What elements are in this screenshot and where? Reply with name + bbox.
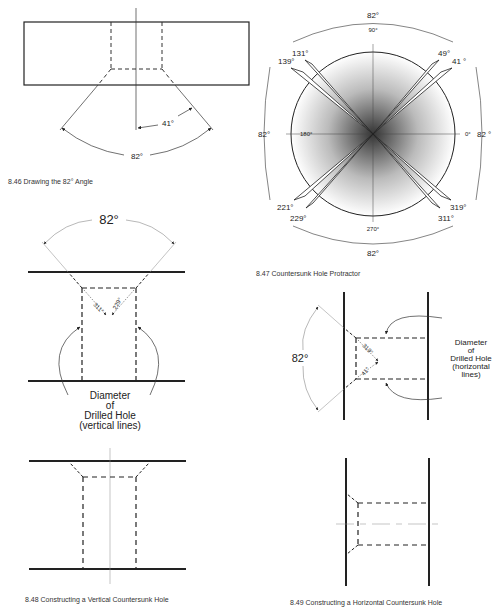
note-line-5: lines)	[461, 370, 480, 379]
caption-8-47: 8.47 Countersunk Hole Protractor	[256, 270, 360, 277]
figure-8-49: 82° 319° 41° Diameter of Drilled Hole (h…	[292, 292, 493, 586]
angle-82-label: 82°	[292, 352, 309, 364]
angle-41-label: 41°	[162, 119, 174, 128]
label-139: 139°	[278, 57, 295, 66]
label-311: 311°	[92, 301, 105, 314]
figure-8-47: 90° 180° 0° 270° 131° 139° 49° 41 ° 221°…	[258, 11, 491, 258]
arc-label-top: 82°	[367, 11, 379, 20]
label-319: 319°	[450, 203, 467, 212]
tick-0: 0°	[465, 131, 471, 137]
arc-label-left: 82°	[258, 130, 270, 139]
arc-label-bottom: 82°	[367, 249, 379, 258]
arc-label-right: 82 °	[477, 130, 491, 139]
caption-8-48: 8.48 Constructing a Vertical Countersunk…	[25, 596, 169, 603]
caption-8-46: 8.46 Drawing the 82° Angle	[8, 178, 93, 185]
label-229: 229°	[112, 296, 124, 310]
label-311: 311°	[438, 214, 454, 223]
caption-8-49: 8.49 Constructing a Horizontal Countersu…	[290, 599, 442, 606]
tick-180: 180°	[300, 131, 313, 137]
diagram-canvas: 82° 41° 90° 180° 0° 270° 131° 139° 49° 4…	[0, 0, 503, 607]
label-49: 49°	[438, 49, 450, 58]
angle-82-label: 82°	[131, 152, 143, 161]
label-41: 41 °	[452, 57, 466, 66]
label-319: 319°	[361, 342, 374, 355]
angle-82-label: 82°	[99, 212, 119, 227]
note-line-4: (vertical lines)	[79, 420, 141, 431]
label-221: 221°	[277, 203, 294, 212]
label-41: 41°	[360, 365, 371, 376]
figure-8-48: 82° 311° 229° Diameter of Drilled Hole (…	[28, 212, 186, 584]
figure-8-46: 82° 41°	[24, 8, 249, 161]
tick-270: 270°	[367, 226, 380, 232]
tick-90: 90°	[368, 27, 378, 33]
label-229: 229°	[290, 214, 307, 223]
